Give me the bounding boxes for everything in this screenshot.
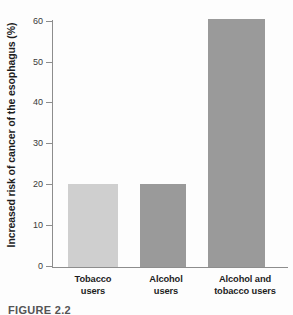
plot-area [52,18,288,267]
bar-alcohol-and-tobacco-users [208,19,265,267]
bar-alcohol-users [140,184,186,267]
y-axis-title: Increased risk of cancer of the esophagu… [2,2,20,268]
x-label-alcohol-and-tobacco-users-line1: Alcohol and [197,274,293,286]
y-tick-label-10: 10 [19,221,43,230]
x-label-alcohol-users-line2: users [133,286,199,298]
x-label-alcohol-and-tobacco-users-line2: tobacco users [197,286,293,298]
x-axis-line [52,267,288,268]
y-tick-label-60: 60 [19,17,43,26]
figure-bar-chart: Increased risk of cancer of the esophagu… [0,0,293,315]
x-label-tobacco-users: Tobacco users [55,274,131,297]
y-tick-label-20: 20 [19,180,43,189]
y-tick-label-30: 30 [19,139,43,148]
y-tick-label-0: 0 [19,262,43,271]
bar-tobacco-users [68,184,118,267]
y-tick-label-50: 50 [19,58,43,67]
y-tick-label-40: 40 [19,98,43,107]
x-label-tobacco-users-line1: Tobacco [55,274,131,286]
x-label-alcohol-users: Alcohol users [133,274,199,297]
x-label-alcohol-users-line1: Alcohol [133,274,199,286]
x-label-alcohol-and-tobacco-users: Alcohol and tobacco users [197,274,293,297]
x-label-tobacco-users-line2: users [55,286,131,298]
figure-caption: FIGURE 2.2 [8,304,71,315]
